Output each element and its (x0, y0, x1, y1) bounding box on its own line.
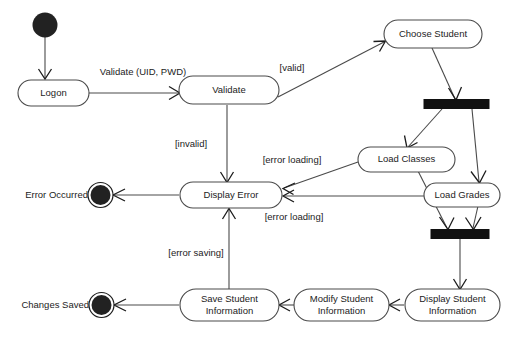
activity-diagram-canvas: Logon Validate Choose Student Load Class… (0, 0, 520, 339)
guard-label-error-loading-grades: [error loading] (265, 211, 324, 222)
action-display-student-information-line1: Display Student (419, 293, 486, 304)
edge-choose-student-to-fork (432, 48, 455, 99)
action-display-error-label: Display Error (204, 189, 259, 200)
initial-node (33, 13, 58, 38)
arrowhead-load-classes-to-join (440, 217, 455, 230)
edge-fork-to-load-grades (472, 109, 479, 182)
action-save-student-information-line1: Save Student (201, 293, 258, 304)
action-modify-student-information-line2: Information (318, 305, 366, 316)
action-display-student-information[interactable]: Display Student Information (405, 289, 500, 321)
edge-load-classes-to-display-error (284, 162, 358, 188)
action-save-student-information-line2: Information (206, 305, 254, 316)
edge-load-grades-to-join (473, 206, 478, 228)
final-node-error-occurred-label: Error Occurred (25, 189, 88, 200)
guard-label-valid: [valid] (280, 62, 305, 73)
action-modify-student-information[interactable]: Modify Student Information (294, 289, 389, 321)
action-load-classes[interactable]: Load Classes (358, 147, 455, 172)
edge-fork-to-load-classes (408, 109, 442, 147)
guard-label-error-loading-classes: [error loading] (263, 154, 322, 165)
final-node-changes-saved-inner (92, 295, 112, 315)
final-node-error-occurred-inner (91, 185, 111, 205)
action-logon[interactable]: Logon (18, 80, 89, 106)
action-validate[interactable]: Validate (179, 76, 279, 104)
action-choose-student-label: Choose Student (399, 28, 467, 39)
guard-label-invalid: [invalid] (175, 138, 207, 149)
fork-bar (424, 100, 489, 109)
activity-diagram-svg: Logon Validate Choose Student Load Class… (0, 0, 520, 339)
action-validate-label: Validate (212, 84, 246, 95)
action-save-student-information[interactable]: Save Student Information (180, 289, 279, 321)
arrowhead-fork-to-load-classes (405, 136, 418, 149)
final-node-changes-saved-label: Changes Saved (21, 299, 89, 310)
action-display-error[interactable]: Display Error (180, 182, 282, 208)
final-node-error-occurred: Error Occurred (25, 183, 113, 208)
guard-label-error-saving: [error saving] (168, 247, 223, 258)
action-modify-student-information-line1: Modify Student (310, 293, 374, 304)
join-bar (431, 230, 489, 239)
action-load-grades-label: Load Grades (435, 189, 490, 200)
final-node-changes-saved: Changes Saved (21, 293, 114, 318)
action-display-student-information-line2: Information (429, 305, 477, 316)
action-logon-label: Logon (40, 87, 66, 98)
action-load-classes-label: Load Classes (378, 153, 436, 164)
action-load-grades[interactable]: Load Grades (424, 183, 500, 207)
edge-label-validate-call: Validate (UID, PWD) (100, 66, 186, 77)
action-choose-student[interactable]: Choose Student (384, 20, 482, 48)
